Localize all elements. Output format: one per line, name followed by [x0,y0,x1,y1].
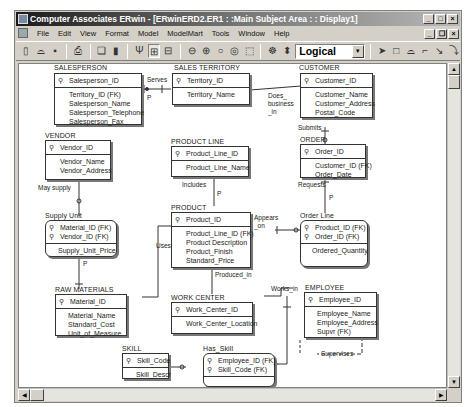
attribute: Standard_Price [186,256,247,265]
rel-label-may-supply: May supply [38,184,71,192]
entity-sales-territory[interactable]: ⚲Territory_ID Territory_Name [172,73,250,105]
rel-label-supervises: Supervises [321,350,353,358]
non-identifying-rel-icon[interactable]: ⤵ [448,44,460,58]
definition-icon[interactable]: ⊟ [162,44,174,58]
key-icon: ⚲ [304,224,309,231]
horizontal-scrollbar[interactable]: ◀ ▶ [18,388,447,401]
view-mode-select[interactable]: Logical ▼ [295,44,365,59]
menu-file[interactable]: File [37,27,49,40]
entity-employee[interactable]: ⚲Employee_ID Employee_Name Employee_Addr… [304,292,377,338]
new-icon[interactable]: ▯ [20,44,32,58]
attribute: Product_Line_ID (FK) [186,229,247,238]
key-icon: ⚲ [207,357,212,364]
menu-window[interactable]: Window [238,27,265,40]
scroll-up-button[interactable]: ▲ [448,63,460,75]
subtype-tool-icon[interactable]: ⌓ [405,44,417,58]
entity-title-sales-territory: SALES TERRITORY [174,64,240,71]
entity-raw-materials[interactable]: ⚲Material_ID Material_Name Standard_Cost… [55,294,127,336]
rel-label-requests: Requests [298,181,325,189]
zoom-in-icon[interactable]: ⊕ [200,44,212,58]
attribute: Customer_Name [315,90,369,99]
save-icon[interactable]: ▪ [49,44,61,58]
scroll-right-button[interactable]: ▶ [435,389,447,401]
toolbar-separator [370,44,371,59]
menu-model[interactable]: Model [138,27,158,40]
key-icon: ⚲ [58,77,63,84]
pk-attribute: Employee_ID (FK) [218,357,276,364]
entity-tool-icon[interactable]: □ [390,44,402,58]
window-title: Computer Associates ERwin - [ERwinERD2.E… [30,14,358,24]
pk-attribute: Skill_Code [137,357,170,364]
zoom-area-icon[interactable]: ⬚ [243,44,255,58]
attribute: Salesperson_Telephone [69,108,138,117]
menu-tools[interactable]: Tools [212,27,230,40]
diagram-canvas[interactable]: SALESPERSON ⚲Salesperson_ID Territory_ID… [18,63,447,388]
entity-title-order: ORDER [300,136,326,143]
attribute: Product Description [186,238,247,247]
entity-display-icon[interactable]: Ψ [133,44,145,58]
menu-view[interactable]: View [80,27,96,40]
pk-attribute: Material_ID (FK) [60,224,111,231]
entity-vendor[interactable]: ⚲Vendor_ID Vendor_Name Vendor_Address [45,140,111,180]
many-to-many-rel-icon[interactable]: ↘ [433,44,445,58]
minimize-button[interactable]: _ [423,14,434,24]
attribute-display-icon[interactable]: ⊞ [148,44,161,58]
report-icon[interactable]: ❏ [96,44,108,58]
menu-format[interactable]: Format [105,27,129,40]
model-icon[interactable]: ▮ [110,44,122,58]
pointer-icon[interactable]: ➤ [376,44,388,58]
zoom-out-icon[interactable]: ⊖ [186,44,198,58]
cardinality-p: P [147,94,151,102]
close-button[interactable]: × [447,14,458,24]
entity-product-line[interactable]: ⚲Product_Line_ID Product_Line_Name [171,146,249,177]
entity-customer[interactable]: ⚲Customer_ID Customer_Name Customer_Addr… [300,73,373,118]
open-icon[interactable]: ⌓ [34,44,46,58]
doc-minimize-button[interactable]: _ [424,29,435,39]
menu-edit[interactable]: Edit [58,27,71,40]
menu-modelmart[interactable]: ModelMart [167,27,202,40]
pk-attribute: Customer_ID [315,77,356,84]
entity-title-raw-materials: RAW MATERIALS [55,286,113,293]
stored-display-icon[interactable]: ⬍ [281,44,293,58]
entity-title-vendor: VENDOR [45,132,76,139]
attribute: Vendor_Address [60,166,107,175]
view-mode-value: Logical [299,45,336,57]
attribute: Postal_Code [315,108,369,117]
attribute: Territory_Name [187,90,246,99]
entity-skill[interactable]: ⚲Skill_Code Skill_Descr [122,353,169,379]
toolbar-separator [180,44,181,59]
print-icon[interactable]: ⎙ [72,44,84,58]
entity-product[interactable]: ⚲Product_ID Product_Line_ID (FK) Product… [171,212,251,268]
key-icon: ⚲ [304,233,309,240]
attribute: Supvr (FK) [317,327,373,336]
zoom-fit-icon[interactable]: ○ [214,44,226,58]
horizontal-scroll-thumb[interactable] [30,389,44,401]
cardinality-p: P [83,260,87,268]
key-icon: ⚲ [59,298,64,305]
entity-order-line[interactable]: ⚲Product_ID (FK) ⚲Order_ID (FK) Ordered_… [300,220,368,267]
identifying-rel-icon[interactable]: ⌐ [419,44,431,58]
doc-restore-button[interactable]: ❐ [436,29,447,39]
zoom-icon[interactable]: ◎ [229,44,241,58]
toolbar: ▯ ⌓ ▪ ⎙ ❏ ▮ Ψ ⊞ ⊟ ⊖ ⊕ ○ ◎ ⬚ ☸ ⬍ Logical … [16,41,460,61]
entity-title-employee: EMPLOYEE [305,284,344,291]
menu-help[interactable]: Help [274,27,289,40]
vertical-scrollbar[interactable]: ▲ ▼ [447,63,460,388]
document-menu-icon[interactable] [18,28,28,38]
chevron-down-icon[interactable]: ▼ [352,45,364,58]
doc-close-button[interactable]: × [448,29,459,39]
vertical-scroll-thumb[interactable] [448,75,460,89]
attribute: Material_Name [68,311,123,320]
scroll-down-button[interactable]: ▼ [448,376,460,388]
key-icon: ⚲ [304,148,309,155]
entity-has-skill[interactable]: ⚲Employee_ID (FK) ⚲Skill_Code (FK) [203,353,275,387]
entity-order[interactable]: ⚲Order_ID Customer_ID (FK) Order_Date [300,144,366,178]
entity-title-salesperson: SALESPERSON [54,64,107,71]
maximize-button[interactable]: □ [435,14,446,24]
scroll-left-button[interactable]: ◀ [18,389,30,401]
rel-label-does-business-in: Does_ business _in [268,92,302,116]
entity-work-center[interactable]: ⚲Work_Center_ID Work_Center_Location [171,302,253,334]
entity-supply-unit[interactable]: ⚲Material_ID (FK) ⚲Vendor_ID (FK) Supply… [45,220,117,257]
subject-area-icon[interactable]: ☸ [266,44,278,58]
entity-salesperson[interactable]: ⚲Salesperson_ID Territory_ID (FK) Salesp… [54,73,142,125]
